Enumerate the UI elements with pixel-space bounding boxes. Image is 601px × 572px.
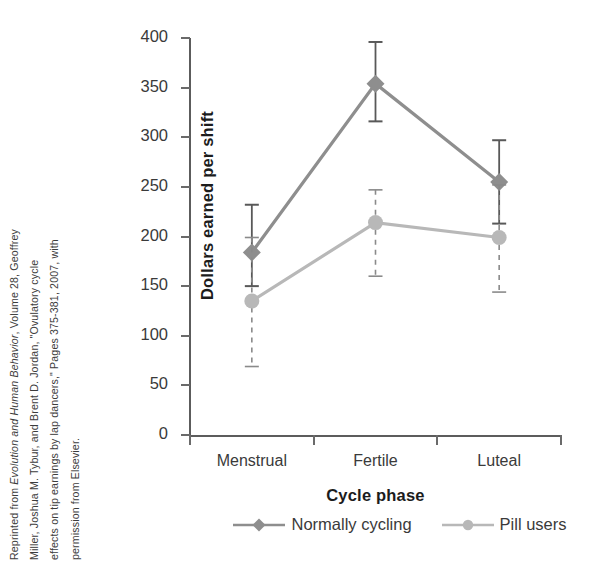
data-series-layer <box>190 38 561 435</box>
data-point-marker <box>368 215 383 230</box>
legend-item-pill-users: Pill users <box>442 515 567 534</box>
x-tick-label: Fertile <box>353 452 397 470</box>
y-tick-label: 350 <box>140 77 168 96</box>
y-tick-mark: 350 <box>181 87 190 89</box>
attribution-text: Reprinted from Evolution and Human Behav… <box>4 4 85 560</box>
chart-legend: Normally cycling Pill users <box>190 515 601 534</box>
x-tick-label: Menstrual <box>217 452 287 470</box>
attribution-line: Miller, Joshua M. Tybur, and Brent D. Jo… <box>24 4 44 560</box>
y-tick-mark: 200 <box>181 236 190 238</box>
x-tick-mark <box>189 435 191 445</box>
y-tick-label: 100 <box>140 325 168 344</box>
data-point-marker <box>492 230 507 245</box>
x-tick-mark <box>436 435 438 445</box>
x-tick-label: Luteal <box>477 452 521 470</box>
x-axis-line <box>189 435 562 437</box>
y-tick-label: 150 <box>140 275 168 294</box>
data-point-marker <box>244 294 259 309</box>
x-tick-mark <box>560 435 562 445</box>
attribution-caption: Reprinted from Evolution and Human Behav… <box>0 0 100 572</box>
y-tick-label: 0 <box>159 424 168 443</box>
y-tick-label: 300 <box>140 126 168 145</box>
legend-label-normally-cycling: Normally cycling <box>291 515 411 534</box>
y-tick-mark: 250 <box>181 186 190 188</box>
attribution-line: permission from Elsevier. <box>65 4 85 560</box>
plot-area: 050100150200250300350400 MenstrualFertil… <box>190 38 561 435</box>
y-tick-mark: 50 <box>181 384 190 386</box>
x-tick-mark <box>313 435 315 445</box>
y-tick-label: 400 <box>140 27 168 46</box>
attribution-line: effects on tip earnings by lap dancers,"… <box>44 4 64 560</box>
y-tick-label: 50 <box>150 374 168 393</box>
legend-item-normally-cycling: Normally cycling <box>233 515 411 534</box>
legend-swatch-diamond-icon <box>233 516 285 534</box>
attribution-line: Reprinted from Evolution and Human Behav… <box>4 4 24 560</box>
chart-figure: Dollars earned per shift 050100150200250… <box>140 0 601 572</box>
y-tick-label: 200 <box>140 226 168 245</box>
y-tick-mark: 100 <box>181 335 190 337</box>
y-tick-label: 250 <box>140 176 168 195</box>
x-axis-title: Cycle phase <box>190 486 561 505</box>
y-tick-mark: 300 <box>181 136 190 138</box>
legend-swatch-circle-icon <box>442 516 494 534</box>
legend-label-pill-users: Pill users <box>500 515 567 534</box>
y-tick-mark: 150 <box>181 285 190 287</box>
y-tick-mark: 400 <box>181 37 190 39</box>
